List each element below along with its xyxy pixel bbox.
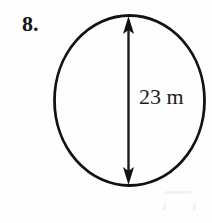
scan-artifact bbox=[163, 203, 166, 210]
scan-artifact bbox=[165, 191, 191, 194]
scan-artifact bbox=[193, 203, 196, 210]
problem-number: 8. bbox=[22, 13, 39, 35]
dimension-label: 23 m bbox=[139, 86, 184, 108]
geometry-figure: 8. 23 m bbox=[0, 0, 212, 223]
